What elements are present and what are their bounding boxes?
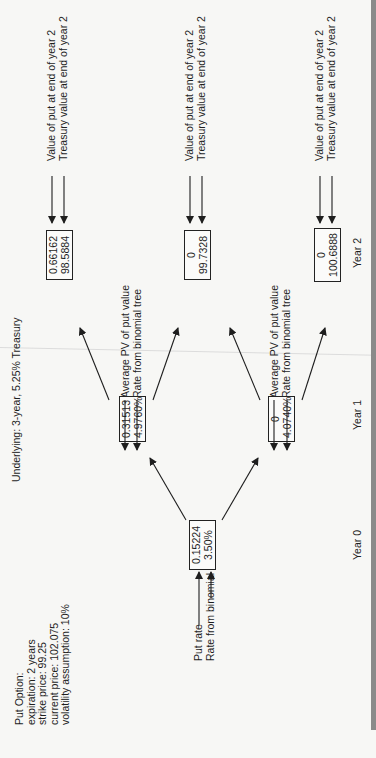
- arrow-icon: [80, 328, 109, 400]
- arrow-icon: [222, 458, 258, 520]
- binomial-tree-diagram: Underlying: 3-year, 5.25% Treasury Put O…: [0, 0, 376, 758]
- arrow-icon: [230, 328, 260, 400]
- arrow-icon: [153, 328, 178, 400]
- arrow-icon: [150, 458, 186, 520]
- tree-arrows: [0, 0, 376, 758]
- arrow-icon: [302, 328, 325, 400]
